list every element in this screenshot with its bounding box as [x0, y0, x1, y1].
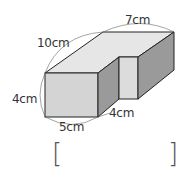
notch-depth-label: 4cm [109, 107, 134, 119]
notch-front-face [119, 57, 138, 99]
back-width-label: 7cm [125, 14, 150, 26]
depth-label: 10cm [37, 37, 69, 49]
front-face [45, 73, 98, 117]
front-width-label: 5cm [59, 121, 84, 133]
height-arc [40, 73, 45, 117]
answer-left-bracket: [ [52, 140, 62, 166]
height-label: 4cm [12, 93, 37, 105]
answer-field[interactable] [62, 142, 167, 164]
answer-right-bracket: ] [168, 140, 178, 166]
